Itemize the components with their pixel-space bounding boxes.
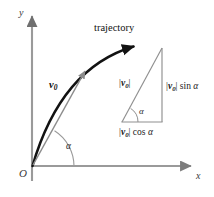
angle-symbol: α bbox=[193, 81, 198, 91]
origin-label: O bbox=[19, 168, 27, 179]
triangle-vertical-leg-label: |v0| sin α bbox=[166, 82, 198, 93]
triangle-angle-arc bbox=[131, 108, 138, 122]
triangle-hypotenuse-label: |v0| bbox=[119, 79, 130, 90]
trajectory-label: trajectory bbox=[94, 23, 134, 34]
launch-angle-label: α bbox=[66, 142, 71, 152]
sine-function: sin bbox=[177, 81, 190, 91]
launch-angle-arc bbox=[55, 131, 75, 166]
triangle-horizontal-leg-label: |v0| cos α bbox=[119, 128, 153, 139]
trajectory-curve bbox=[33, 47, 134, 167]
triangle-angle-label: α bbox=[139, 107, 144, 116]
angle-symbol: α bbox=[148, 127, 153, 137]
initial-velocity-label: v0 bbox=[49, 80, 57, 92]
y-axis-label: y bbox=[19, 8, 23, 18]
cosine-function: cos bbox=[130, 127, 145, 137]
velocity-subscript: 0 bbox=[54, 83, 58, 92]
x-axis-label: x bbox=[196, 171, 200, 181]
initial-velocity-arrow bbox=[33, 71, 85, 165]
magnitude-bar-close: | bbox=[129, 78, 131, 88]
projectile-trajectory-figure: y x O trajectory v0 α |v0| |v0| sin α |v… bbox=[0, 0, 214, 197]
